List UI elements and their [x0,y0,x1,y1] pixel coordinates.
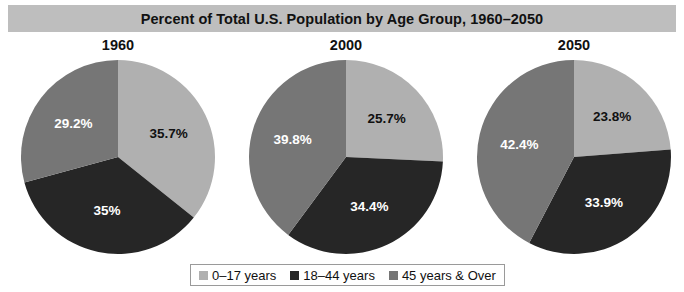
legend-swatch-icon-0-17-years [199,271,208,280]
pie-slice-label-2000-2: 39.8% [273,132,311,147]
page-title: Percent of Total U.S. Population by Age … [141,11,543,27]
pie-chart-1960: 35.7%35%29.2% [19,58,217,256]
pie-chart-2000: 25.7%34.4%39.8% [247,58,445,256]
pie-chart-2050: 23.8%33.9%42.4% [475,58,673,256]
pie-slice-label-2000-1: 34.4% [350,199,388,214]
pie-year-label-1960: 1960 [58,37,178,53]
pie-slice-label-1960-0: 35.7% [150,126,188,141]
pie-slice-label-2050-2: 42.4% [500,137,538,152]
legend-label-45-years-and-over: 45 years & Over [402,268,496,283]
legend-item-18-44-years: 18–44 years [290,268,375,283]
pie-year-label-2050: 2050 [514,37,634,53]
legend-label-18-44-years: 18–44 years [303,268,375,283]
legend-swatch-icon-18-44-years [290,271,299,280]
legend-item-0-17-years: 0–17 years [199,268,276,283]
pie-svg-2050: 23.8%33.9%42.4% [475,58,673,256]
legend-item-45-years-and-over: 45 years & Over [389,268,496,283]
legend-swatch-icon-45-years-and-over [389,271,398,280]
pie-slice-label-2000-0: 25.7% [368,111,406,126]
pie-slice-label-1960-2: 29.2% [54,116,92,131]
pie-slice-label-2050-0: 23.8% [593,109,631,124]
pie-chart-figure: Percent of Total U.S. Population by Age … [0,0,684,292]
pie-year-label-2000: 2000 [286,37,406,53]
legend-label-0-17-years: 0–17 years [212,268,276,283]
pie-svg-1960: 35.7%35%29.2% [19,58,217,256]
pie-slice-label-2050-1: 33.9% [585,195,623,210]
pie-svg-2000: 25.7%34.4%39.8% [247,58,445,256]
chart-title-banner: Percent of Total U.S. Population by Age … [8,5,676,32]
pie-slice-label-1960-1: 35% [93,203,120,218]
chart-legend: 0–17 years 18–44 years 45 years & Over [190,264,505,286]
